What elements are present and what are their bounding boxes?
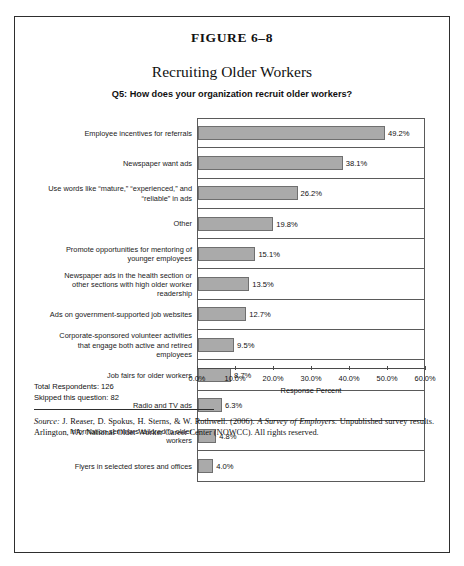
x-tick-label: 30.0%: [301, 374, 322, 383]
bar-value-label: 13.5%: [249, 280, 274, 289]
category-label: Other: [33, 219, 197, 228]
skipped-question: Skipped this question: 82: [34, 393, 119, 404]
bar-value-label: 6.3%: [222, 401, 242, 410]
total-respondents: Total Respondents: 126: [34, 382, 119, 393]
bar-cell: 49.2%: [197, 118, 425, 148]
source-authors: J. Reaser, D. Spokus, H. Sterns, & W. Ro…: [60, 417, 257, 426]
bar-cell: 19.8%: [197, 209, 425, 239]
bar-chart: Employee incentives for referrals49.2%Ne…: [15, 118, 451, 368]
x-tick: [235, 366, 236, 370]
respondent-stats: Total Respondents: 126 Skipped this ques…: [34, 382, 119, 403]
figure-title: Recruiting Older Workers: [15, 63, 449, 81]
bar: [198, 217, 273, 231]
category-label: Employee incentives for referrals: [33, 129, 197, 138]
bar-value-label: 15.1%: [255, 249, 280, 258]
category-label: Corporate-sponsored volunteer activities…: [33, 331, 197, 359]
bar-cell: 38.1%: [197, 148, 425, 178]
bar: [198, 247, 255, 261]
chart-row: Other19.8%: [33, 209, 433, 239]
category-label: Newspaper ads in the health section orot…: [33, 271, 197, 299]
x-tick-label: 60.0%: [415, 374, 436, 383]
x-tick: [197, 366, 198, 370]
chart-row: Newspaper want ads38.1%: [33, 148, 433, 178]
bar-value-label: 9.5%: [234, 340, 254, 349]
source-work-title: A Survey of Employers.: [257, 417, 337, 426]
bar: [198, 156, 343, 170]
x-axis-title: Response Percent: [197, 386, 425, 395]
figure-subtitle: Q5: How does your organization recruit o…: [15, 89, 449, 99]
chart-row: Employee incentives for referrals49.2%: [33, 118, 433, 148]
x-tick: [273, 366, 274, 370]
bar: [198, 186, 298, 200]
x-tick: [311, 366, 312, 370]
bar: [198, 277, 249, 291]
x-tick-label: 10.0%: [225, 374, 246, 383]
x-tick-label: 0.0%: [189, 374, 206, 383]
bar: [198, 126, 385, 140]
category-label: Newspaper want ads: [33, 159, 197, 168]
bar-cell: 4.0%: [197, 451, 425, 481]
source-label: Source:: [34, 417, 60, 426]
chart-row: Promote opportunities for mentoring ofyo…: [33, 239, 433, 269]
bar-value-label: 26.2%: [298, 189, 323, 198]
figure-number: FIGURE 6–8: [15, 30, 449, 46]
source-citation: Source: J. Reaser, D. Spokus, H. Sterns,…: [34, 416, 434, 439]
x-tick: [349, 366, 350, 370]
bar-cell: 13.5%: [197, 269, 425, 299]
chart-row: Corporate-sponsored volunteer activities…: [33, 330, 433, 360]
category-label: Use words like “mature,” “experienced,” …: [33, 184, 197, 203]
x-tick: [425, 366, 426, 370]
bar-cell: 26.2%: [197, 179, 425, 209]
chart-row: Use words like “mature,” “experienced,” …: [33, 179, 433, 209]
chart-row: Newspaper ads in the health section orot…: [33, 269, 433, 299]
x-tick: [387, 366, 388, 370]
bar-value-label: 4.0%: [213, 461, 233, 470]
bar-value-label: 12.7%: [246, 310, 271, 319]
divider: [34, 409, 214, 410]
category-label: Ads on government-supported job websites: [33, 310, 197, 319]
bar: [198, 338, 234, 352]
bar-value-label: 19.8%: [273, 219, 298, 228]
figure-page: FIGURE 6–8 Recruiting Older Workers Q5: …: [14, 16, 450, 553]
x-tick-label: 50.0%: [377, 374, 398, 383]
x-tick-label: 40.0%: [339, 374, 360, 383]
x-tick-label: 20.0%: [263, 374, 284, 383]
x-axis: 0.0%10.0%20.0%30.0%40.0%50.0%60.0%: [197, 368, 425, 370]
bar-value-label: 38.1%: [343, 158, 368, 167]
category-label: Flyers in selected stores and offices: [33, 462, 197, 471]
bar: [198, 307, 246, 321]
chart-row: Flyers in selected stores and offices4.0…: [33, 451, 433, 481]
category-label: Job fairs for older workers: [33, 371, 197, 380]
chart-row: Ads on government-supported job websites…: [33, 300, 433, 330]
category-label: Promote opportunities for mentoring ofyo…: [33, 245, 197, 264]
bar-value-label: 49.2%: [385, 129, 410, 138]
bar: [198, 398, 222, 412]
bar-cell: 15.1%: [197, 239, 425, 269]
bar-cell: 9.5%: [197, 330, 425, 360]
bar-cell: 12.7%: [197, 300, 425, 330]
bar: [198, 459, 213, 473]
